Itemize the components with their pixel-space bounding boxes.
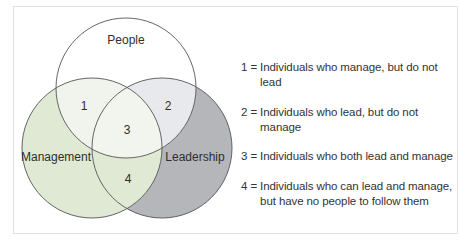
legend-text: Individuals who can lead and manage, [260, 179, 456, 194]
region-1-label: 1 [81, 99, 88, 113]
legend-text-group: Individuals who can lead and manage, but… [260, 179, 456, 209]
legend-number: 2 = [241, 105, 260, 135]
leadership-label: Leadership [165, 150, 225, 164]
legend-item-2: 2 = Individuals who lead, but do not man… [241, 105, 456, 135]
region-2-label: 2 [165, 99, 172, 113]
legend-item-1: 1 = Individuals who manage, but do not l… [241, 60, 456, 90]
legend: 1 = Individuals who manage, but do not l… [241, 60, 456, 223]
legend-number: 3 = [241, 149, 260, 164]
legend-number: 1 = [241, 60, 260, 90]
legend-text-continued: but have no people to follow them [260, 194, 456, 209]
people-label: People [107, 33, 145, 47]
legend-text: Individuals who lead, but do not manage [260, 105, 456, 135]
management-label: Management [21, 150, 92, 164]
region-3-label: 3 [124, 123, 131, 137]
region-4-label: 4 [125, 172, 132, 186]
legend-text: Individuals who both lead and manage [260, 149, 456, 164]
legend-number: 4 = [241, 179, 260, 209]
legend-item-4: 4 = Individuals who can lead and manage,… [241, 179, 456, 209]
legend-text: Individuals who manage, but do not lead [260, 60, 456, 90]
legend-item-3: 3 = Individuals who both lead and manage [241, 149, 456, 164]
